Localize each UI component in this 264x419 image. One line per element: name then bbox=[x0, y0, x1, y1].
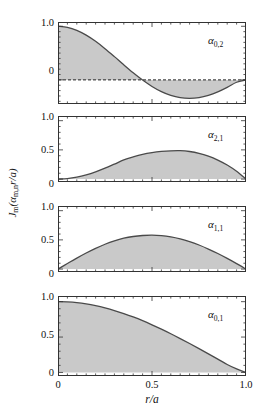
xtick-05: 0.5 bbox=[132, 379, 172, 390]
panel-alpha-0-1: α0,1 bbox=[58, 296, 246, 376]
ytick-p3-0: 0 bbox=[2, 367, 54, 378]
ytick-p3-05: 0.5 bbox=[2, 329, 54, 340]
ytick-p0-1: 1.0 bbox=[2, 17, 54, 28]
panel-label: α0,2 bbox=[208, 34, 223, 49]
ytick-p2-05: 0.5 bbox=[2, 234, 54, 245]
panel-alpha-2-1: α2,1 bbox=[58, 116, 246, 182]
ytick-p2-0: 0 bbox=[2, 268, 54, 279]
panel-label: α1,1 bbox=[208, 218, 223, 233]
xtick-0: 0 bbox=[38, 379, 78, 390]
panel-plot-area: α0,1 bbox=[58, 296, 246, 376]
curve-fill-region bbox=[58, 302, 246, 373]
panel-alpha-0-2: α0,2 bbox=[58, 22, 246, 104]
bessel-function-figure: Jm(αm,nr/a) 1.0 0 1.0 0.5 0 1.0 0.5 0 1.… bbox=[0, 0, 264, 419]
x-axis-label: r/a bbox=[58, 393, 246, 405]
panel-label: α2,1 bbox=[208, 128, 223, 143]
panel-plot-area: α2,1 bbox=[58, 116, 246, 182]
curve-fill-region bbox=[58, 26, 246, 98]
ytick-p1-0: 0 bbox=[2, 178, 54, 189]
ytick-p1-05: 0.5 bbox=[2, 144, 54, 155]
panel-plot-area: α1,1 bbox=[58, 206, 246, 272]
y-tick-labels: 1.0 0 1.0 0.5 0 1.0 0.5 0 1.0 0.5 0 bbox=[0, 0, 54, 419]
ytick-p3-1: 1.0 bbox=[2, 291, 54, 302]
ytick-p0-0: 0 bbox=[2, 65, 54, 76]
ytick-p1-1: 1.0 bbox=[2, 111, 54, 122]
xtick-10: 1.0 bbox=[226, 379, 264, 390]
ytick-p2-1: 1.0 bbox=[2, 201, 54, 212]
panel-alpha-1-1: α1,1 bbox=[58, 206, 246, 272]
panel-label: α0,1 bbox=[208, 308, 223, 323]
curve-fill-region bbox=[58, 235, 246, 269]
panel-plot-area: α0,2 bbox=[58, 22, 246, 104]
